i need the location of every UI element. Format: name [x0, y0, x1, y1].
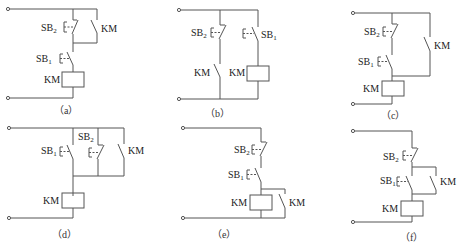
svg-text:SB2: SB2 — [364, 26, 380, 39]
km-no-contact — [118, 144, 124, 158]
terminal-top — [177, 8, 180, 11]
svg-text:SB1: SB1 — [36, 53, 52, 66]
sb1-no-contact — [247, 168, 261, 182]
sb2-nc-contact — [403, 148, 418, 162]
km-coil — [62, 72, 84, 87]
km-coil — [382, 81, 404, 96]
terminal-bottom — [351, 102, 354, 105]
sb1-label: SB — [358, 56, 371, 67]
sb1-label: SB — [261, 29, 274, 40]
svg-text:SB1: SB1 — [41, 145, 57, 158]
circuit-diagrams: SB2 KM SB1 KM （a） S — [0, 0, 463, 252]
km-contact-label: KM — [128, 145, 144, 156]
sb1-no-contact — [243, 27, 258, 41]
svg-text:SB2: SB2 — [78, 131, 94, 144]
sb2-nc-contact — [211, 25, 226, 39]
svg-text:SB2: SB2 — [191, 27, 207, 40]
sb2-nc-contact — [252, 142, 267, 156]
sb2-nc-contact — [64, 20, 78, 43]
caption-d: （d） — [52, 229, 77, 240]
sb2-nc-contact — [89, 145, 104, 159]
terminal-top — [7, 126, 10, 129]
sb1-no-contact — [60, 145, 73, 159]
sb1-no-contact — [397, 176, 412, 190]
svg-text:SB1: SB1 — [261, 29, 277, 42]
km-no-contact — [279, 194, 285, 208]
km-coil-label: KM — [43, 195, 59, 206]
sb2-label: SB — [234, 144, 247, 155]
sb1-label: SB — [228, 169, 241, 180]
km-coil — [401, 201, 423, 216]
km-contact-label: KM — [434, 40, 450, 51]
terminal-bottom — [6, 96, 9, 99]
km-coil-label: KM — [382, 203, 398, 214]
svg-text:SB2: SB2 — [383, 151, 399, 164]
sb2-label: SB — [383, 151, 396, 162]
sb2-nc-contact — [383, 24, 398, 38]
km-coil-label: KM — [229, 67, 245, 78]
caption-a: （a） — [54, 105, 78, 116]
terminal-bottom — [7, 216, 10, 219]
sb1-label: SB — [380, 175, 393, 186]
terminal-top — [181, 126, 184, 129]
km-coil-label: KM — [363, 83, 379, 94]
sb1-label: SB — [41, 145, 54, 156]
km-contact-label: KM — [101, 23, 117, 34]
caption-c: （c） — [381, 110, 405, 121]
caption-f: （f） — [400, 232, 423, 243]
km-contact-label: KM — [440, 176, 456, 187]
km-no-contact — [91, 20, 97, 43]
km-no-contact — [430, 176, 436, 190]
terminal-top — [351, 129, 354, 132]
sb1-no-contact — [60, 52, 73, 65]
sb2-label: SB — [78, 131, 91, 142]
terminal-bottom — [177, 97, 180, 100]
km-no-contact — [424, 37, 430, 51]
terminal-top — [351, 11, 354, 14]
caption-b: （b） — [205, 108, 230, 119]
panel-a: SB2 KM SB1 KM （a） — [6, 7, 117, 116]
km-coil — [247, 66, 269, 81]
caption-e: （e） — [212, 229, 236, 240]
svg-text:SB1: SB1 — [228, 169, 244, 182]
panel-b: SB2 SB1 KM KM （b） — [177, 8, 277, 119]
panel-c: SB2 KM SB1 KM （c） — [351, 11, 450, 121]
svg-text:SB1: SB1 — [380, 175, 396, 188]
panel-e: SB2 SB1 KM KM （e） — [181, 126, 305, 240]
panel-f: SB2 SB1 KM KM （f） — [351, 129, 456, 243]
km-coil-label: KM — [44, 74, 60, 85]
sb2-label: SB — [191, 27, 204, 38]
terminal-bottom — [351, 220, 354, 223]
km-coil-label: KM — [231, 197, 247, 208]
km-no-contact — [214, 64, 220, 77]
panel-d: SB2 SB1 KM KM （d） — [7, 126, 144, 240]
sb2-label: SB — [364, 26, 377, 37]
terminal-bottom — [181, 216, 184, 219]
svg-text:SB1: SB1 — [358, 56, 374, 69]
svg-text:SB2: SB2 — [41, 22, 57, 35]
km-contact-label: KM — [194, 67, 210, 78]
terminal-top — [6, 7, 9, 10]
sb1-no-contact — [378, 55, 392, 69]
km-contact-label: KM — [289, 197, 305, 208]
svg-text:SB2: SB2 — [234, 144, 250, 157]
sb1-label: SB — [36, 53, 49, 64]
sb2-label: SB — [41, 22, 54, 33]
km-coil — [250, 195, 272, 210]
